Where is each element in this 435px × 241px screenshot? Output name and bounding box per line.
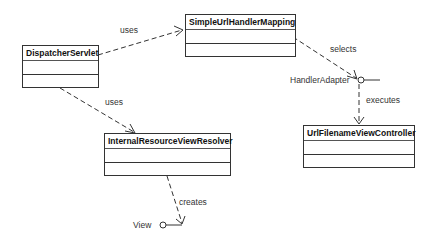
attributes-compartment: [105, 149, 230, 163]
class-name: InternalResourceViewResolver: [105, 134, 230, 149]
attributes-compartment: [304, 141, 414, 155]
uses-edge-resolver: [60, 88, 134, 132]
attributes-compartment: [23, 61, 98, 75]
interface-label-view: View: [133, 220, 151, 230]
operations-compartment: [186, 44, 295, 57]
view-interface-icon: [160, 222, 166, 228]
class-name: SimpleUrlHandlerMapping: [186, 15, 295, 30]
relation-label-executes: executes: [366, 95, 400, 105]
class-name: UrlFilenameViewController: [304, 126, 414, 141]
operations-compartment: [105, 163, 230, 176]
uses-edge-mapping: [98, 30, 182, 55]
handler-adapter-interface-icon: [358, 77, 364, 83]
class-simple-url-handler-mapping[interactable]: SimpleUrlHandlerMapping: [185, 14, 296, 57]
relation-label-uses-resolver: uses: [105, 97, 123, 107]
operations-compartment: [304, 155, 414, 168]
attributes-compartment: [186, 30, 295, 44]
operations-compartment: [23, 75, 98, 88]
arrowhead-icon: [125, 124, 135, 133]
relation-label-creates: creates: [179, 197, 207, 207]
class-dispatcher-servlet[interactable]: DispatcherServlet: [22, 45, 99, 88]
class-name: DispatcherServlet: [23, 46, 98, 61]
class-url-filename-view-controller[interactable]: UrlFilenameViewController: [303, 125, 415, 168]
class-internal-resource-view-resolver[interactable]: InternalResourceViewResolver: [104, 133, 231, 176]
relation-label-selects: selects: [330, 44, 356, 54]
interface-label-handler-adapter: HandlerAdapter: [290, 75, 350, 85]
relation-label-uses-mapping: uses: [120, 25, 138, 35]
